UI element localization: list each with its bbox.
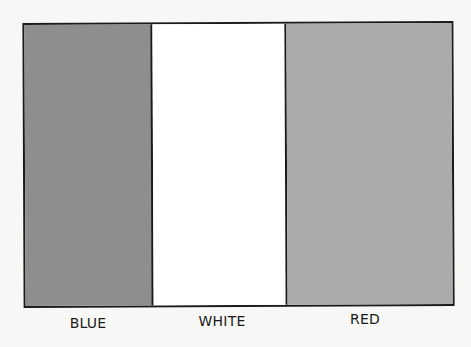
label-blue: BLUE <box>70 315 107 331</box>
label-red: RED <box>350 311 380 327</box>
stripe-blue <box>24 24 153 306</box>
stripe-red <box>286 23 452 305</box>
stripe-white <box>152 24 287 306</box>
label-white: WHITE <box>199 313 246 329</box>
flag <box>22 21 454 308</box>
